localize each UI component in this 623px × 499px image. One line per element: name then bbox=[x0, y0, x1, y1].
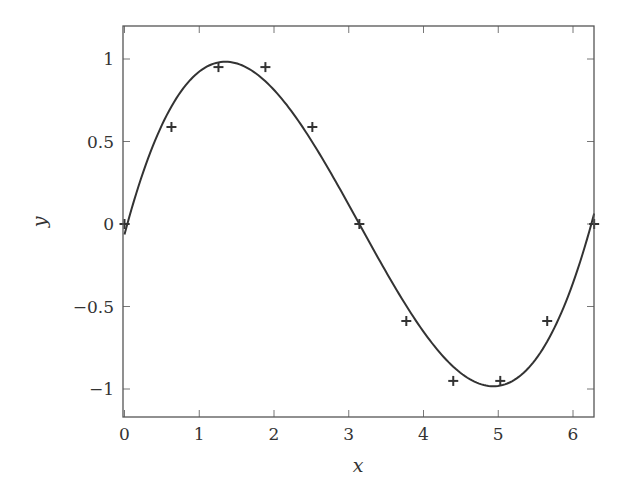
y-tick-label: 1 bbox=[103, 49, 114, 69]
y-tick-label: −1 bbox=[89, 379, 114, 399]
x-axis-label: x bbox=[353, 454, 364, 476]
x-tick-label: 6 bbox=[568, 424, 579, 444]
x-tick-label: 2 bbox=[269, 424, 280, 444]
y-tick-label: 0.5 bbox=[87, 132, 114, 152]
x-tick-label: 0 bbox=[119, 424, 130, 444]
data-point-marker bbox=[542, 316, 552, 326]
x-tick-label: 3 bbox=[343, 424, 354, 444]
data-point-marker bbox=[307, 122, 317, 132]
x-tick-label: 1 bbox=[194, 424, 205, 444]
chart: 0123456−1−0.500.51 x y bbox=[0, 0, 623, 499]
data-point-marker bbox=[166, 122, 176, 132]
x-tick-label: 4 bbox=[418, 424, 429, 444]
x-tick-label: 5 bbox=[493, 424, 504, 444]
data-point-marker bbox=[401, 316, 411, 326]
data-point-marker bbox=[260, 62, 270, 72]
y-axis-label: y bbox=[28, 216, 50, 228]
y-tick-label: 0 bbox=[103, 214, 114, 234]
data-point-marker bbox=[448, 376, 458, 386]
data-markers bbox=[120, 62, 600, 386]
data-point-marker bbox=[354, 219, 364, 229]
y-tick-label: −0.5 bbox=[73, 297, 114, 317]
